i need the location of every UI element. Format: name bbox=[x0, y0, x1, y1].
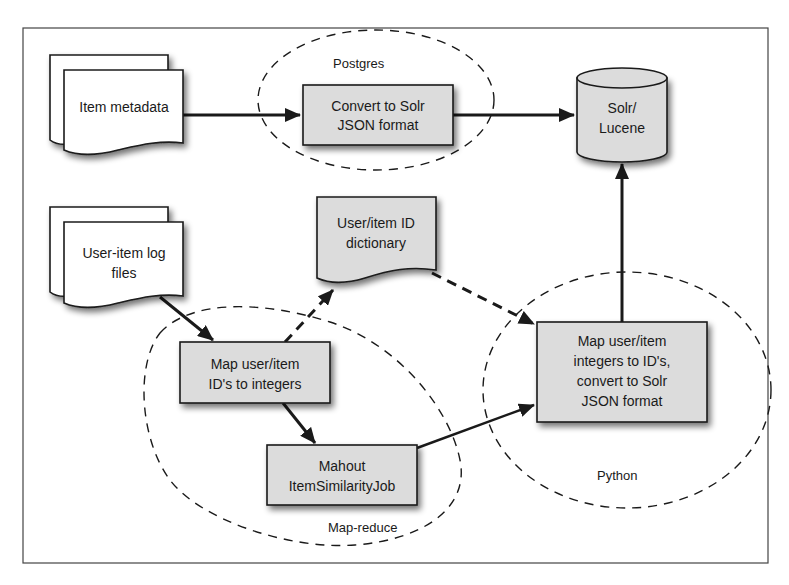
node-logs-line1: User-item log bbox=[82, 245, 165, 261]
node-mahout-line1: Mahout bbox=[319, 458, 366, 474]
node-map-back-line2: integers to ID's, bbox=[574, 353, 671, 369]
node-convert-solr-line2: JSON format bbox=[338, 117, 419, 133]
node-item-metadata-label: Item metadata bbox=[79, 99, 169, 115]
node-solr-lucene: Solr/ Lucene bbox=[577, 68, 667, 162]
node-convert-solr-line1: Convert to Solr bbox=[331, 98, 425, 114]
node-dictionary-line2: dictionary bbox=[346, 235, 406, 251]
node-map-ids: Map user/item ID's to integers bbox=[180, 342, 330, 403]
group-label-python: Python bbox=[597, 468, 637, 483]
node-dictionary-line1: User/item ID bbox=[337, 215, 415, 231]
node-map-back-line3: convert to Solr bbox=[577, 373, 668, 389]
node-mahout-line2: ItemSimilarityJob bbox=[289, 478, 396, 494]
node-mahout: Mahout ItemSimilarityJob bbox=[267, 445, 417, 505]
diagram-canvas: Postgres Map-reduce Python Item metadata… bbox=[0, 0, 789, 585]
group-label-map-reduce: Map-reduce bbox=[328, 520, 397, 535]
node-solr-line1: Solr/ bbox=[608, 100, 637, 116]
node-map-ids-line1: Map user/item bbox=[211, 356, 300, 372]
node-logs-line2: files bbox=[112, 265, 137, 281]
node-map-ids-line2: ID's to integers bbox=[209, 376, 302, 392]
node-map-back: Map user/item integers to ID's, convert … bbox=[537, 322, 707, 422]
node-map-back-line4: JSON format bbox=[582, 393, 663, 409]
node-solr-line2: Lucene bbox=[599, 120, 645, 136]
node-map-back-line1: Map user/item bbox=[578, 333, 667, 349]
node-convert-solr: Convert to Solr JSON format bbox=[303, 85, 453, 145]
group-label-postgres: Postgres bbox=[333, 56, 385, 71]
